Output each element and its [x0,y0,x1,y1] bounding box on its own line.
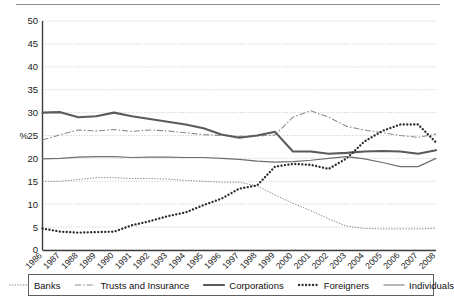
y-tick-40: 40 [27,61,38,72]
y-tick-35: 35 [27,84,38,95]
x-tick-1990: 1990 [95,250,116,271]
x-tick-1997: 1997 [220,250,241,271]
series-line-individuals [43,157,437,167]
x-tick-2005: 2005 [363,250,384,271]
x-tick-1994: 1994 [166,250,187,271]
y-tick-30: 30 [27,107,38,118]
series-line-banks [43,178,437,229]
legend-item-banks[interactable]: Banks [8,280,60,291]
x-tick-1998: 1998 [238,250,259,271]
y-tick-20: 20 [27,153,38,164]
x-tick-1986: 1986 [23,250,44,271]
x-axis-tick-labels: 1986198719881989199019911992199319941995… [23,250,437,271]
x-tick-1991: 1991 [113,250,134,271]
legend-label: Trusts and Insurance [100,280,189,291]
x-tick-2007: 2007 [399,250,420,271]
y-tick-15: 15 [27,176,38,187]
x-tick-1987: 1987 [41,250,62,271]
legend-swatch-solid-thin-icon [383,280,405,290]
y-tick-10: 10 [27,199,38,210]
legend-label: Foreigners [324,280,369,291]
y-axis-label: % [20,130,29,141]
x-tick-1988: 1988 [59,250,80,271]
chart-legend: BanksTrusts and InsuranceCorporationsFor… [28,274,434,296]
legend-item-corporations[interactable]: Corporations [203,280,283,291]
legend-item-individuals[interactable]: Individuals [383,280,454,291]
x-tick-1995: 1995 [184,250,205,271]
x-tick-1999: 1999 [256,250,277,271]
y-axis-tick-labels: 05101520253035404550 [27,15,38,255]
legend-label: Banks [34,280,60,291]
x-tick-2002: 2002 [310,250,331,271]
y-tick-50: 50 [27,15,38,26]
data-series-group [43,111,437,233]
x-tick-2004: 2004 [345,250,366,271]
x-tick-2000: 2000 [274,250,295,271]
x-tick-2006: 2006 [381,250,402,271]
legend-swatch-thick-dotted-icon [298,280,320,290]
y-tick-25: 25 [27,130,38,141]
y-tick-45: 45 [27,38,38,49]
legend-swatch-solid-thick-icon [203,280,225,290]
x-tick-1989: 1989 [77,250,98,271]
x-tick-1992: 1992 [131,250,152,271]
gridlines-group [43,21,437,250]
x-tick-1996: 1996 [202,250,223,271]
legend-item-foreigners[interactable]: Foreigners [298,280,369,291]
series-line-foreigners [43,125,437,233]
x-tick-2003: 2003 [327,250,348,271]
x-tick-1993: 1993 [149,250,170,271]
x-tick-2008: 2008 [417,250,438,271]
axis-lines-group [43,21,437,251]
legend-swatch-fine-dotted-icon [8,280,30,290]
legend-swatch-dash-dot-icon [74,280,96,290]
legend-label: Individuals [409,280,454,291]
x-tick-2001: 2001 [292,250,313,271]
legend-item-trusts-and-insurance[interactable]: Trusts and Insurance [74,280,189,291]
legend-label: Corporations [229,280,283,291]
y-tick-5: 5 [33,222,38,233]
